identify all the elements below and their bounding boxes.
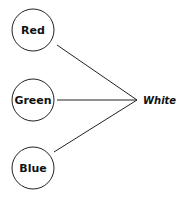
node-red-label: Red bbox=[21, 24, 45, 37]
color-mixing-diagram: Red Green Blue White bbox=[0, 0, 177, 198]
node-blue-label: Blue bbox=[19, 162, 46, 175]
node-green-label: Green bbox=[14, 94, 51, 107]
edge-blue-white bbox=[54, 100, 137, 152]
node-blue: Blue bbox=[12, 147, 54, 189]
node-green: Green bbox=[12, 79, 54, 121]
edge-red-white bbox=[57, 45, 137, 100]
node-red: Red bbox=[12, 9, 54, 51]
target-white-label: White bbox=[143, 95, 176, 106]
